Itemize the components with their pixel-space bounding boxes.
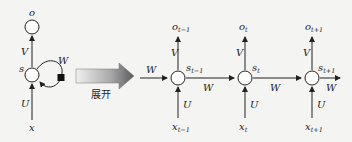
svg-text:ot−1: ot−1 <box>172 21 190 34</box>
svg-text:st+1: st+1 <box>318 62 335 75</box>
delay-square <box>58 74 65 81</box>
label-v: V <box>21 46 30 57</box>
state-node-s <box>25 68 39 82</box>
label-u: U <box>317 99 326 110</box>
label-u: U <box>183 99 192 110</box>
label-o-sub: t <box>245 26 248 34</box>
unfold-label: 展开 <box>91 89 111 100</box>
label-s: s <box>19 63 24 74</box>
state-node <box>305 71 319 85</box>
label-v: V <box>171 47 180 58</box>
label-v: V <box>236 47 245 58</box>
label-x: x <box>29 122 35 133</box>
svg-text:xt: xt <box>239 121 248 134</box>
label-w-1: W <box>203 82 214 93</box>
output-node-o <box>25 20 39 34</box>
label-u: U <box>250 99 259 110</box>
label-o-sub: t+1 <box>311 26 323 34</box>
svg-text:xt+1: xt+1 <box>305 121 323 134</box>
svg-text:st−1: st−1 <box>186 62 203 75</box>
svg-text:xt−1: xt−1 <box>172 121 190 134</box>
label-x-sub: t+1 <box>311 126 323 134</box>
label-x-sub: t <box>245 126 248 134</box>
unfold-arrow: 展开 <box>76 63 134 100</box>
svg-text:ot: ot <box>239 21 248 34</box>
state-node <box>238 71 252 85</box>
label-s-sub: t <box>257 67 260 75</box>
label-o: o <box>29 7 35 18</box>
label-w-out: W <box>326 82 337 93</box>
label-s-sub: t−1 <box>191 67 203 75</box>
label-v: V <box>303 47 312 58</box>
label-w: W <box>58 55 69 66</box>
label-o-sub: t−1 <box>178 26 190 34</box>
state-node <box>171 71 185 85</box>
svg-text:st: st <box>252 62 260 75</box>
rnn-diagram: o V s W U x 展开 W V U ot−1 st−1 xt−1 W <box>0 0 352 142</box>
label-u: U <box>21 98 30 109</box>
label-s-sub: t+1 <box>323 67 335 75</box>
label-x-sub: t−1 <box>178 126 190 134</box>
folded-rnn: o V s W U x <box>19 7 69 133</box>
label-w-in: W <box>146 64 157 75</box>
unrolled-rnn: W V U ot−1 st−1 xt−1 W V U ot st xt W <box>140 21 340 134</box>
svg-text:ot+1: ot+1 <box>305 21 323 34</box>
label-w-2: W <box>270 82 281 93</box>
